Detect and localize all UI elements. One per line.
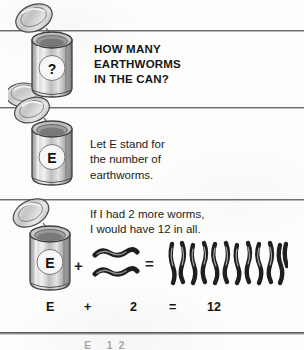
definition-text: Let E stand for the number of earthworms…	[90, 137, 165, 183]
equation-plus: +	[84, 300, 91, 314]
visual-equals-symbol: =	[145, 255, 154, 272]
can-label-disc: ?	[39, 56, 65, 81]
visual-plus-symbol: +	[74, 257, 83, 274]
worm-pair-two	[92, 243, 140, 285]
equation-equals: =	[169, 300, 176, 314]
can-label-text: E	[47, 150, 56, 166]
can-illustration-define: E	[10, 96, 94, 196]
heading-text: HOW MANY EARTHWORMS IN THE CAN?	[94, 42, 181, 88]
worksheet-page: ? HOW MANY EARTHWORMS IN THE CAN?	[0, 0, 304, 350]
visual-equation: + =	[70, 243, 296, 291]
cut-off-text: E 12	[84, 339, 234, 349]
worm-group-twelve	[166, 240, 288, 288]
equation-addend: 2	[130, 300, 137, 314]
can-label-disc: E	[39, 145, 65, 170]
symbolic-equation: E + 2 = 12	[0, 300, 304, 322]
can-label-text: E	[45, 255, 54, 271]
story-text: If I had 2 more worms, I would have 12 i…	[90, 207, 204, 238]
divider-rule-4	[0, 332, 304, 335]
can-label-text: ?	[48, 61, 57, 77]
equation-total: 12	[207, 300, 221, 314]
can-figure-define: E	[10, 96, 94, 196]
can-label-disc: E	[37, 250, 63, 275]
equation-variable: E	[46, 300, 54, 314]
